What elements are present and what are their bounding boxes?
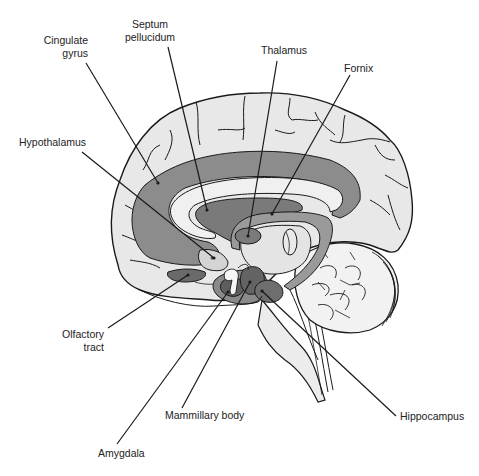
label-hippocampus: Hippocampus [400,410,464,423]
label-thalamus: Thalamus [261,44,307,57]
label-cingulate-gyrus: Cingulate gyrus [28,34,88,60]
label-cingulate-gyrus-line1: Cingulate [28,34,88,47]
label-cingulate-gyrus-line2: gyrus [28,47,88,60]
label-olfactory-tract: Olfactory tract [44,328,104,354]
label-olfactory-tract-line1: Olfactory [44,328,104,341]
label-hypothalamus-line1: Hypothalamus [19,136,86,149]
label-septum-pellucidum-line1: Septum [120,18,180,31]
label-olfactory-tract-line2: tract [44,341,104,354]
brain-diagram: Cingulate gyrus Septum pellucidum Thalam… [0,0,479,476]
hippocampus-region [255,280,283,302]
label-mammillary-body-line1: Mammillary body [165,409,244,422]
label-mammillary-body: Mammillary body [165,409,244,422]
label-amygdala: Amygdala [98,447,145,460]
cerebellum [295,243,398,333]
label-amygdala-line1: Amygdala [98,447,145,460]
label-fornix-line1: Fornix [344,62,373,75]
label-hypothalamus: Hypothalamus [19,136,86,149]
label-hippocampus-line1: Hippocampus [400,410,464,423]
label-fornix: Fornix [344,62,373,75]
brain-illustration [0,0,479,476]
label-septum-pellucidum-line2: pellucidum [120,31,180,44]
label-thalamus-line1: Thalamus [261,44,307,57]
label-septum-pellucidum: Septum pellucidum [120,18,180,44]
